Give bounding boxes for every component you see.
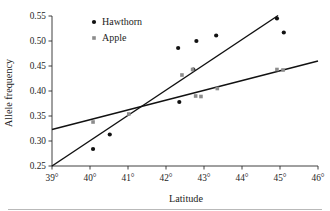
legend-marker-hawthorn (92, 20, 96, 24)
y-tick-label: 0.25 (30, 161, 47, 171)
x-tick-label: 39° (45, 173, 58, 183)
x-axis-title: Latitude (169, 193, 203, 204)
data-point-hawthorn (108, 132, 112, 136)
x-tick-label: 46° (311, 173, 324, 183)
axes (52, 16, 318, 166)
y-tick-label: 0.30 (30, 136, 47, 146)
data-point-apple (281, 68, 285, 72)
x-tick-label: 45° (273, 173, 286, 183)
data-point-apple (275, 68, 279, 72)
x-tick-labels: 39°40°41°42°43°44°45°46° (45, 173, 324, 183)
y-tick-label: 0.50 (30, 36, 47, 46)
y-tick-label: 0.45 (30, 61, 47, 71)
tick-marks (49, 16, 319, 170)
x-tick-label: 41° (121, 173, 134, 183)
data-point-apple (127, 112, 131, 116)
legend-label-hawthorn: Hawthorn (102, 16, 142, 27)
figure-container: 0.250.300.350.400.450.500.55 39°40°41°42… (0, 0, 330, 211)
data-point-apple (216, 87, 220, 91)
data-point-hawthorn (91, 147, 95, 151)
data-point-hawthorn (176, 46, 180, 50)
trend-line-hawthorn (52, 16, 278, 167)
x-tick-label: 40° (83, 173, 96, 183)
y-tick-labels: 0.250.300.350.400.450.500.55 (30, 11, 47, 171)
data-point-apple (191, 68, 195, 72)
legend: HawthornApple (92, 16, 142, 43)
y-axis-title: Allele frequency (3, 58, 14, 127)
y-tick-label: 0.40 (30, 86, 47, 96)
data-point-hawthorn (275, 16, 279, 20)
x-tick-label: 44° (235, 173, 248, 183)
y-tick-label: 0.55 (30, 11, 47, 21)
data-point-hawthorn (214, 33, 218, 37)
scatter-plot: 0.250.300.350.400.450.500.55 39°40°41°42… (0, 0, 330, 211)
data-point-apple (91, 120, 95, 124)
data-point-hawthorn (194, 39, 198, 43)
x-tick-label: 42° (159, 173, 172, 183)
y-tick-label: 0.35 (30, 111, 47, 121)
trend-lines (52, 16, 318, 167)
data-point-hawthorn (177, 100, 181, 104)
data-point-apple (194, 94, 198, 98)
data-point-apple (199, 95, 203, 99)
legend-label-apple: Apple (102, 32, 127, 43)
data-point-apple (180, 73, 184, 77)
x-tick-label: 43° (197, 173, 210, 183)
data-point-hawthorn (282, 30, 286, 34)
legend-marker-apple (92, 36, 96, 40)
